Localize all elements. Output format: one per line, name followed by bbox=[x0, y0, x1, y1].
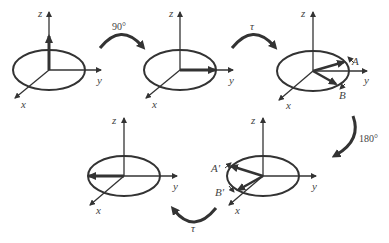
vector-b bbox=[313, 71, 336, 84]
z-label: z bbox=[300, 7, 306, 19]
y-label: y bbox=[228, 74, 234, 86]
vector-b-label: B bbox=[339, 89, 346, 101]
x-label: x bbox=[234, 204, 240, 216]
pulse-180-label: 180° bbox=[359, 133, 378, 144]
x-label: x bbox=[20, 98, 26, 110]
vector-a-prime-label: A' bbox=[210, 162, 221, 174]
x-axis bbox=[15, 70, 49, 98]
rotation-arrow-tau-2 bbox=[174, 208, 216, 222]
y-label: y bbox=[363, 74, 369, 86]
x-axis bbox=[146, 70, 180, 98]
x-axis bbox=[279, 71, 313, 100]
vector-a-label: A bbox=[351, 55, 359, 67]
z-label: z bbox=[37, 7, 43, 19]
pulse-90-label: 90° bbox=[112, 21, 126, 32]
x-label: x bbox=[95, 204, 101, 216]
y-label: y bbox=[311, 180, 317, 192]
vector-a-prime bbox=[231, 166, 263, 176]
z-label: z bbox=[111, 114, 117, 126]
x-label: x bbox=[285, 99, 291, 111]
tau-label-1: τ bbox=[250, 20, 255, 32]
spin-echo-diagram: z y x 90° z y x τ z y x A B 180° bbox=[0, 0, 389, 243]
panel-4 bbox=[225, 118, 316, 205]
x-axis bbox=[229, 176, 263, 205]
panel-5 bbox=[88, 118, 177, 205]
rotation-arrow-90 bbox=[100, 34, 142, 48]
panel-1 bbox=[13, 12, 101, 98]
panel-2 bbox=[144, 12, 233, 98]
vector-b-prime-label: B' bbox=[215, 186, 225, 198]
vector-b-prime bbox=[238, 176, 263, 190]
vector-a bbox=[313, 62, 344, 71]
x-axis bbox=[90, 176, 124, 205]
x-label: x bbox=[151, 98, 157, 110]
rotation-arrow-tau-1 bbox=[232, 34, 274, 48]
y-label: y bbox=[172, 180, 178, 192]
z-label: z bbox=[250, 114, 256, 126]
y-label: y bbox=[96, 74, 102, 86]
rotation-arrow-180 bbox=[336, 116, 355, 155]
tau-label-2: τ bbox=[191, 222, 196, 234]
z-label: z bbox=[168, 7, 174, 19]
